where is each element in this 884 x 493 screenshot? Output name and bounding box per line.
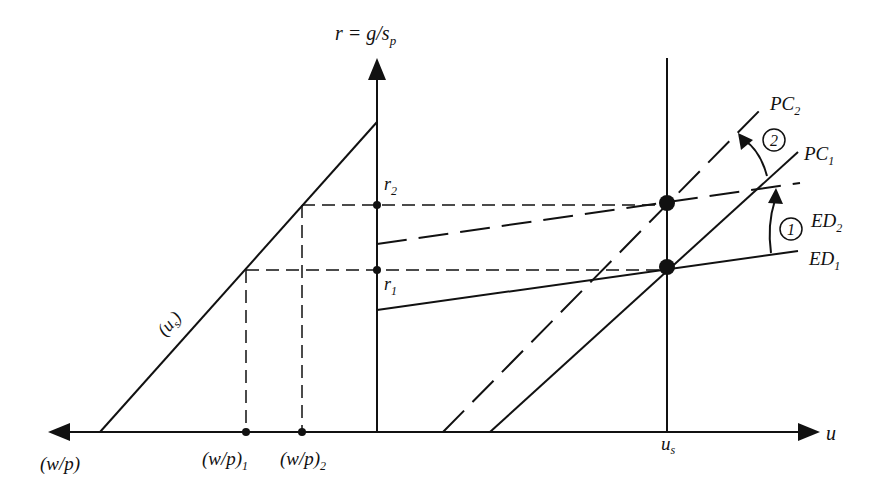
ed2-label: ED2 <box>810 210 842 235</box>
pc1-line <box>490 152 798 432</box>
pc2-line <box>443 106 764 432</box>
wp1-dot <box>242 428 250 436</box>
wp1-label: (w/p)1 <box>202 448 248 473</box>
r1-dot <box>373 266 381 274</box>
diagram-canvas: 1 2 r = g/sp u (w/p) r2 r1 (w/p)1 (w/p)2… <box>0 0 884 493</box>
shift-arrow-2 <box>744 140 767 176</box>
wp2-dot <box>298 428 306 436</box>
shift-arrow-2-head-icon <box>738 133 753 150</box>
pc1-label: PC1 <box>803 143 834 168</box>
shift-arrow-1-head-icon <box>768 188 783 204</box>
vertical-axis-label: r = g/sp <box>335 22 397 48</box>
left-arrowhead-icon <box>48 423 70 441</box>
horizontal-axis-label-wp: (w/p) <box>40 453 80 475</box>
wp2-label: (w/p)2 <box>280 448 326 473</box>
r2-label: r2 <box>384 174 397 198</box>
horizontal-axis-label-u: u <box>826 422 836 444</box>
ed1-line <box>377 251 798 310</box>
pc2-label: PC2 <box>769 93 800 118</box>
equilibrium-1-dot <box>659 259 675 275</box>
shift-arrow-1 <box>770 200 775 253</box>
vertical-axis <box>368 58 386 432</box>
horizontal-axis <box>48 423 820 441</box>
ed2-line <box>377 183 800 244</box>
up-arrowhead-icon <box>368 58 386 80</box>
marker-1-label: 1 <box>787 221 795 238</box>
right-arrowhead-icon <box>798 423 820 441</box>
ed1-label: ED1 <box>808 248 840 273</box>
us-label: us <box>661 433 676 457</box>
us-diagonal-line <box>100 122 377 432</box>
us-line-label: (us) <box>153 307 187 341</box>
r1-label: r1 <box>384 274 397 298</box>
marker-2-label: 2 <box>770 132 778 149</box>
equilibrium-2-dot <box>659 195 675 211</box>
r2-dot <box>373 201 381 209</box>
